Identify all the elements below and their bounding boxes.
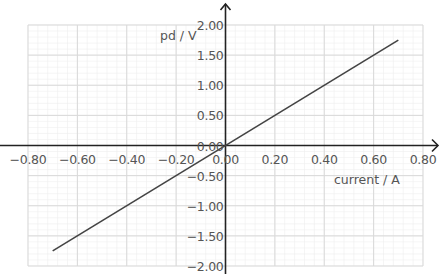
x-tick-label: 0.20 bbox=[262, 152, 289, 167]
y-tick-label: 1.00 bbox=[197, 78, 224, 93]
x-tick-label: −0.20 bbox=[158, 152, 195, 167]
y-tick-label: −1.00 bbox=[187, 199, 224, 214]
y-tick-label: −1.50 bbox=[187, 229, 224, 244]
x-tick-label: 0.40 bbox=[311, 152, 338, 167]
y-tick-label: 0.50 bbox=[197, 108, 224, 123]
y-tick-label: 0.00 bbox=[197, 139, 224, 154]
x-tick-label: −0.80 bbox=[10, 152, 47, 167]
x-tick-labels: −0.80−0.60−0.40−0.200.000.200.400.600.80 bbox=[10, 152, 437, 167]
x-tick-label: 0.60 bbox=[360, 152, 387, 167]
x-tick-label: 0.00 bbox=[212, 152, 239, 167]
x-tick-label: −0.60 bbox=[59, 152, 96, 167]
y-tick-label: 2.00 bbox=[197, 18, 224, 33]
y-axis-label: pd / V bbox=[160, 28, 197, 43]
x-tick-label: −0.40 bbox=[108, 152, 145, 167]
y-tick-label: 1.50 bbox=[197, 48, 224, 63]
y-tick-label: −2.00 bbox=[187, 259, 224, 274]
x-axis-label: current / A bbox=[334, 172, 400, 187]
y-tick-label: −0.50 bbox=[187, 169, 224, 184]
pd-current-chart: −0.80−0.60−0.40−0.200.000.200.400.600.80… bbox=[0, 0, 444, 279]
x-tick-label: 0.80 bbox=[410, 152, 437, 167]
